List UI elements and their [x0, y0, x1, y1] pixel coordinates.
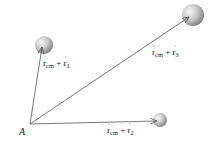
label-particle-3: rcm + r3	[152, 48, 179, 59]
diagram-canvas	[0, 0, 208, 147]
vector-to-particle-1	[30, 47, 42, 124]
label-particle-2: rcm + r2	[107, 126, 134, 137]
vector-to-particle-3	[30, 17, 189, 124]
particle-1-sphere	[35, 36, 53, 54]
origin-label-A: A	[19, 126, 25, 137]
particle-3-sphere	[182, 4, 204, 26]
label-particle-1: rcm + r1	[43, 59, 70, 70]
vector-to-particle-2	[30, 121, 157, 124]
particle-2-sphere	[153, 113, 167, 127]
